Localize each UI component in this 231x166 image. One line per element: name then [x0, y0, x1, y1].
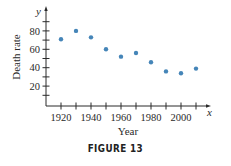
y-axis-title: Death rate [10, 34, 22, 80]
data-point [59, 37, 63, 41]
data-point [149, 60, 153, 64]
x-axis-title: Year [118, 125, 139, 137]
y-tick-label: 20 [30, 81, 41, 92]
data-point [74, 29, 78, 33]
data-points [59, 29, 198, 76]
data-point [134, 51, 138, 55]
x-tick-label: 2000 [171, 112, 192, 123]
data-point [179, 71, 183, 75]
y-tick-label: 40 [30, 62, 41, 73]
axes [44, 6, 211, 108]
data-point [104, 47, 108, 51]
y-tick-label: 80 [30, 26, 41, 37]
y-axis-arrow-icon [44, 6, 47, 11]
x-tick-label: 1920 [51, 112, 72, 123]
data-point [164, 69, 168, 73]
x-tick-label: 1940 [81, 112, 102, 123]
y-axis-variable: y [35, 5, 41, 17]
x-tick-label: 1960 [111, 112, 132, 123]
x-axis-variable: x [206, 106, 212, 118]
y-tick-label: 60 [30, 44, 41, 55]
data-point [89, 35, 93, 39]
data-point [194, 66, 198, 70]
x-tick-label: 1980 [141, 112, 162, 123]
data-point [119, 54, 123, 58]
figure-caption: FIGURE 13 [23, 142, 208, 155]
